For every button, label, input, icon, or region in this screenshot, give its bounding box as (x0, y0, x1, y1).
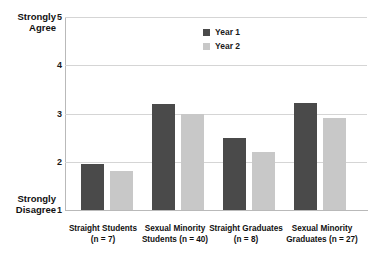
x-axis-line (65, 210, 368, 211)
bar-year2-straight-students (110, 171, 133, 210)
legend-swatch-year1-icon (203, 29, 210, 36)
gridline-4 (65, 65, 367, 66)
bar-year1-straight-graduates (223, 138, 246, 210)
bar-year1-straight-students (81, 164, 104, 210)
y-tick-3: 3 (50, 110, 62, 119)
x-label-sexual-minority-students-line1: Sexual Minority (145, 224, 206, 233)
y-axis-bottom-caption-line1: Strongly (17, 193, 56, 204)
legend: Year 1 Year 2 (203, 25, 240, 53)
gridline-2 (65, 162, 367, 163)
bar-year2-sexual-minority-graduates (323, 118, 346, 210)
bar-year1-sexual-minority-graduates (294, 103, 317, 210)
y-tick-2: 2 (50, 158, 62, 167)
bar-year2-sexual-minority-students (181, 114, 204, 211)
x-label-sexual-minority-graduates-line1: Sexual Minority (292, 224, 353, 233)
x-label-straight-graduates-line1: Straight Graduates (209, 224, 283, 233)
y-tick-1: 1 (50, 206, 62, 215)
legend-label-year2: Year 2 (215, 42, 240, 51)
legend-item-year2: Year 2 (203, 39, 240, 53)
y-tick-4: 4 (50, 61, 62, 70)
gridline-5 (65, 17, 367, 18)
y-axis-top-caption-line2: Agree (29, 22, 56, 33)
y-axis-bottom-caption: Strongly Disagree (6, 194, 56, 215)
bar-chart: Strongly Agree Strongly Disagree 5 4 3 2… (0, 0, 378, 260)
x-label-sexual-minority-graduates-line2: Graduates (n = 27) (274, 234, 370, 245)
y-tick-5: 5 (50, 13, 62, 22)
legend-item-year1: Year 1 (203, 25, 240, 39)
bar-year1-sexual-minority-students (152, 104, 175, 210)
y-axis-top-caption: Strongly Agree (6, 12, 56, 33)
x-label-straight-students-line1: Straight Students (69, 224, 137, 233)
bar-year2-straight-graduates (252, 152, 275, 210)
gridline-3 (65, 114, 367, 115)
x-label-sexual-minority-graduates: Sexual Minority Graduates (n = 27) (274, 223, 370, 245)
legend-label-year1: Year 1 (215, 28, 240, 37)
legend-swatch-year2-icon (203, 43, 210, 50)
